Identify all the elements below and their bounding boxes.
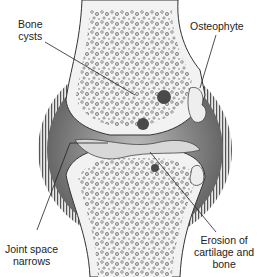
bone-cyst: [151, 164, 159, 172]
bone-cyst: [137, 118, 149, 130]
label-line: Osteophyte: [190, 20, 244, 32]
label-line: narrows: [5, 255, 58, 267]
osteophyte-lower: [190, 165, 204, 185]
label-line: cartilage and: [194, 246, 254, 258]
label-line: Joint space: [5, 243, 58, 255]
label-bone-cysts: Bone cysts: [18, 18, 43, 42]
label-osteophyte: Osteophyte: [190, 20, 244, 32]
label-line: cysts: [18, 30, 43, 42]
label-line: bone: [194, 258, 254, 270]
label-line: Erosion of: [194, 234, 254, 246]
bone-cyst: [157, 90, 171, 104]
leader-osteophyte: [200, 35, 216, 88]
label-line: Bone: [18, 18, 43, 30]
label-joint-space: Joint space narrows: [5, 243, 58, 267]
label-erosion: Erosion of cartilage and bone: [194, 234, 254, 270]
